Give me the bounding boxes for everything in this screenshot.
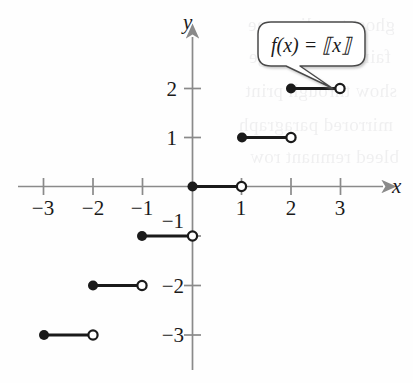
closed-endpoint-neg1 <box>137 231 147 241</box>
callout-label: f(x) = ⟦x⟧ <box>271 34 353 57</box>
x-tick-label-1: 1 <box>236 196 247 220</box>
x-tick-labels: −3 −2 −1 1 2 3 <box>32 196 345 220</box>
closed-endpoint-0 <box>188 182 198 192</box>
y-tick-label-2: 2 <box>167 77 178 101</box>
closed-endpoint-1 <box>237 133 247 143</box>
closed-endpoint-2 <box>286 84 296 94</box>
open-endpoint-2 <box>286 133 295 142</box>
y-tick-label-neg3: −3 <box>162 323 184 347</box>
open-endpoint-neg2 <box>88 330 97 339</box>
open-endpoint-1 <box>237 182 246 191</box>
open-endpoint-neg1 <box>137 281 146 290</box>
plot-canvas: −3 −2 −1 1 2 3 2 1 −1 −2 −3 y x f(x) = ⟦… <box>0 0 413 383</box>
y-tick-label-neg2: −2 <box>162 274 184 298</box>
closed-endpoint-neg3 <box>39 330 49 340</box>
open-endpoints <box>88 84 344 340</box>
closed-endpoint-neg2 <box>88 281 98 291</box>
step-function-figure: ghost text line one faint reverse page s… <box>0 0 413 383</box>
y-tick-label-1: 1 <box>167 126 178 150</box>
x-tick-label-neg1: −1 <box>131 196 153 220</box>
x-tick-label-3: 3 <box>335 196 346 220</box>
open-endpoint-0 <box>188 231 197 240</box>
x-axis-label: x <box>391 174 402 198</box>
y-tick-labels: 2 1 −1 −2 −3 <box>162 77 184 347</box>
x-tick-label-2: 2 <box>286 196 297 220</box>
x-tick-label-neg3: −3 <box>32 196 54 220</box>
y-tick-label-neg1: −1 <box>162 209 184 233</box>
y-axis-label: y <box>181 10 193 34</box>
open-endpoint-3 <box>335 84 344 93</box>
x-tick-label-neg2: −2 <box>82 196 104 220</box>
